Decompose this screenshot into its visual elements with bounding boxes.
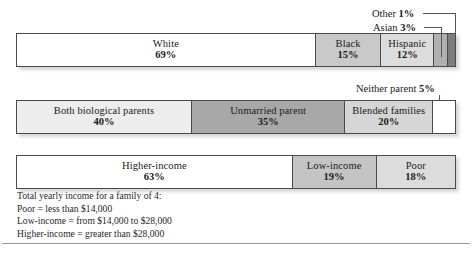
footnote-line-4: Higher-income = greater than $28,000 [17,228,172,241]
callout-other-value: 1% [399,8,415,19]
callout-asian-label: Asian [373,22,400,33]
income-level-bar: Higher-income 63% Low-income 19% Poor 18… [16,155,456,189]
segment-poor: Poor 18% [377,156,455,188]
segment-both-biological-parents: Both biological parents 40% [17,101,192,133]
segment-low-income: Low-income 19% [293,156,377,188]
callout-neither-parent-label: Neither parent [356,83,419,94]
segment-hispanic-value: 12% [397,50,418,61]
callout-neither-parent: Neither parent 5% [356,83,435,94]
race-ethnicity-bar: White 69% Black 15% Hispanic 12% [16,33,456,67]
segment-both-biological-parents-value: 40% [94,117,115,128]
callout-neither-parent-value: 5% [419,83,435,94]
segment-black: Black 15% [316,34,382,66]
segment-black-value: 15% [338,50,359,61]
segment-blended-families: Blended families 20% [345,101,433,133]
callout-other-leader-horizontal [423,13,456,14]
callout-other-leader-vertical [455,13,456,35]
segment-other [448,34,455,66]
callout-asian-value: 3% [400,22,416,33]
segment-unmarried-parent: Unmarried parent 35% [192,101,345,133]
callout-asian-leader-vertical [441,27,442,57]
segment-hispanic: Hispanic 12% [381,34,434,66]
bottom-divider [2,243,470,244]
segment-neither-parent [433,101,455,133]
segment-blended-families-value: 20% [378,117,399,128]
stacked-bar-figure: White 69% Black 15% Hispanic 12% Other 1… [0,0,472,254]
callout-other-label: Other [372,8,399,19]
segment-low-income-value: 19% [324,172,345,183]
segment-poor-value: 18% [405,172,426,183]
segment-unmarried-parent-value: 35% [258,117,279,128]
segment-white: White 69% [17,34,316,66]
callout-asian-leader-horizontal [424,27,442,28]
footnote-line-3: Low-income = from $14,000 to $28,000 [17,215,172,228]
segment-white-value: 69% [155,50,176,61]
segment-higher-income-value: 63% [144,172,165,183]
footnote-line-2: Poor = less than $14,000 [17,203,172,216]
footnote-line-1: Total yearly income for a family of 4: [17,190,172,203]
callout-other: Other 1% [372,8,414,19]
income-definitions-footnote: Total yearly income for a family of 4: P… [17,190,172,241]
callout-asian: Asian 3% [373,22,416,33]
family-structure-bar: Both biological parents 40% Unmarried pa… [16,100,456,134]
segment-higher-income: Higher-income 63% [17,156,293,188]
